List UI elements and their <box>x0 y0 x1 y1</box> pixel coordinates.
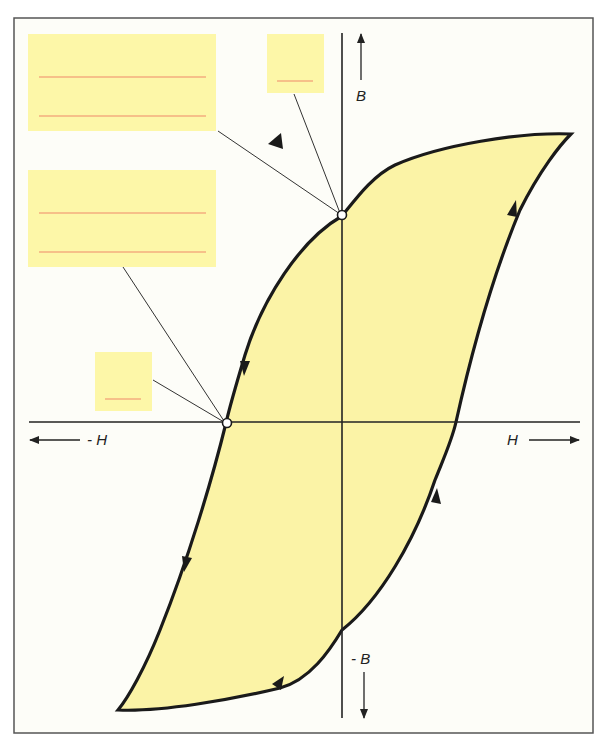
coercivity-point <box>223 419 232 428</box>
label-box-mid-left <box>28 170 216 267</box>
label-box-top-small <box>267 34 324 93</box>
label-box-top-left <box>28 34 216 131</box>
h-positive-label: H <box>507 431 518 448</box>
h-negative-label: - H <box>87 431 107 448</box>
b-negative-label: - B <box>351 650 370 667</box>
hysteresis-diagram: B - B - H H <box>0 0 607 741</box>
b-positive-label: B <box>356 87 366 104</box>
remanence-point <box>338 211 347 220</box>
label-box-lower-small <box>95 352 152 411</box>
